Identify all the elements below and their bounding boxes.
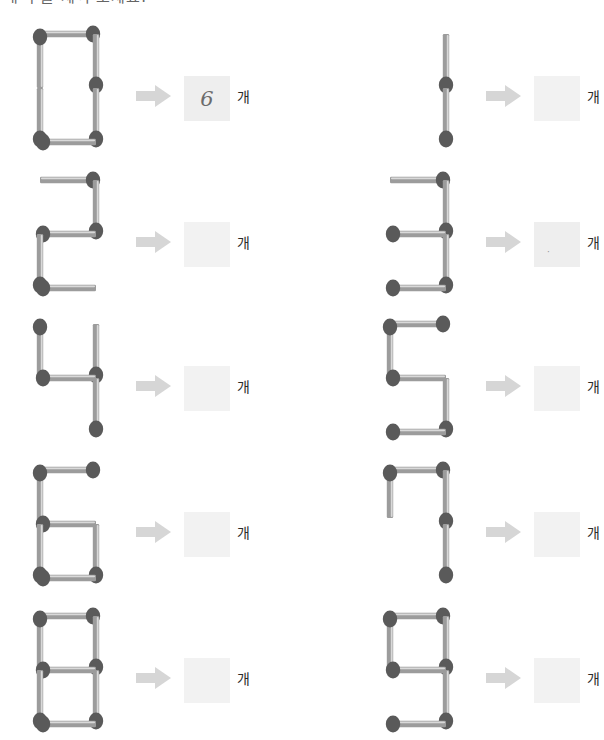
right-arrow-icon — [136, 520, 172, 544]
answer-input-9[interactable] — [534, 658, 580, 703]
matchstick-icon — [36, 226, 96, 243]
answer-value-6 — [184, 512, 230, 557]
matchstick-icon — [386, 716, 446, 733]
right-arrow-icon — [486, 374, 522, 398]
matchstick-icon — [36, 134, 96, 151]
matchstick-icon — [89, 670, 103, 729]
answer-input-6[interactable] — [184, 512, 230, 557]
matchstick-icon — [89, 524, 103, 583]
matchstick-digit-1 — [368, 22, 488, 167]
matchstick-icon — [390, 172, 450, 189]
problem-8: 개 — [18, 604, 316, 740]
unit-label-9: 개 — [587, 668, 600, 688]
matchstick-figure-8 — [18, 604, 138, 740]
matchstick-digit-6 — [18, 458, 138, 603]
unit-label-7: 개 — [587, 522, 600, 542]
answer-value-5 — [534, 366, 580, 411]
unit-label-8: 개 — [237, 668, 250, 688]
matchstick-icon — [439, 378, 453, 437]
matchstick-icon — [33, 319, 47, 378]
matchstick-icon — [33, 29, 47, 88]
problem-5: 개 — [368, 312, 604, 457]
matchstick-icon — [439, 470, 453, 529]
right-arrow-icon — [136, 374, 172, 398]
matchstick-icon — [36, 570, 96, 587]
answer-input-1[interactable] — [534, 76, 580, 121]
answer-input-3[interactable]: · — [534, 222, 580, 267]
matchstick-icon — [390, 316, 450, 333]
matchstick-icon — [89, 180, 103, 239]
answer-input-5[interactable] — [534, 366, 580, 411]
unit-label-3: 개 — [587, 232, 600, 252]
matchstick-icon — [386, 280, 446, 297]
matchstick-icon — [40, 172, 100, 189]
matchstick-icon — [386, 226, 446, 243]
answer-input-8[interactable] — [184, 658, 230, 703]
matchstick-icon — [439, 88, 453, 147]
problem-1: 개 — [368, 22, 604, 167]
matchstick-icon — [390, 608, 450, 625]
matchstick-icon — [383, 319, 397, 378]
matchstick-figure-2 — [18, 168, 138, 313]
problem-0: 6개 — [18, 22, 316, 167]
matchstick-icon — [439, 234, 453, 293]
matchstick-icon — [439, 180, 453, 239]
matchstick-icon — [36, 280, 96, 297]
matchstick-digit-0 — [18, 22, 138, 167]
matchstick-figure-6 — [18, 458, 138, 603]
matchstick-digit-9 — [368, 604, 488, 740]
matchstick-icon — [36, 662, 96, 679]
matchstick-icon — [40, 462, 100, 479]
matchstick-figure-0 — [18, 22, 138, 167]
matchstick-digit-8 — [18, 604, 138, 740]
matchstick-icon — [383, 611, 397, 670]
matchstick-icon — [386, 662, 446, 679]
answer-input-2[interactable] — [184, 222, 230, 267]
right-arrow-icon — [136, 230, 172, 254]
matchstick-digit-2 — [18, 168, 138, 313]
matchstick-figure-4 — [18, 312, 138, 457]
right-arrow-icon — [486, 666, 522, 690]
matchstick-icon — [89, 324, 103, 383]
matchstick-icon — [40, 26, 100, 43]
answer-input-4[interactable] — [184, 366, 230, 411]
matchstick-icon — [40, 608, 100, 625]
answer-value-8 — [184, 658, 230, 703]
matchstick-icon — [439, 34, 453, 93]
matchstick-digit-5 — [368, 312, 488, 457]
matchstick-icon — [36, 370, 96, 387]
right-arrow-icon — [486, 84, 522, 108]
problem-6: 개 — [18, 458, 316, 603]
answer-value-2 — [184, 222, 230, 267]
problem-4: 개 — [18, 312, 316, 457]
right-arrow-icon — [136, 666, 172, 690]
unit-label-6: 개 — [237, 522, 250, 542]
right-arrow-icon — [136, 84, 172, 108]
matchstick-icon — [33, 611, 47, 670]
matchstick-figure-1 — [368, 22, 488, 167]
unit-label-0: 개 — [237, 86, 250, 106]
unit-label-1: 개 — [587, 86, 600, 106]
problem-3: ·개 — [368, 168, 604, 313]
answer-input-7[interactable] — [534, 512, 580, 557]
matchstick-digit-4 — [18, 312, 138, 457]
matchstick-icon — [33, 465, 47, 524]
matchstick-icon — [89, 378, 103, 437]
right-arrow-icon — [486, 520, 522, 544]
answer-value-1 — [534, 76, 580, 121]
problem-9: 개 — [368, 604, 604, 740]
matchstick-icon — [439, 616, 453, 675]
answer-input-0[interactable]: 6 — [184, 76, 230, 121]
answer-value-9 — [534, 658, 580, 703]
matchstick-icon — [439, 670, 453, 729]
matchstick-digit-7 — [368, 458, 488, 603]
unit-label-4: 개 — [237, 376, 250, 396]
matchstick-digit-3 — [368, 168, 488, 313]
matchstick-icon — [439, 524, 453, 583]
matchstick-icon — [383, 465, 397, 518]
matchstick-figure-5 — [368, 312, 488, 457]
unit-label-5: 개 — [587, 376, 600, 396]
unit-label-2: 개 — [237, 232, 250, 252]
matchstick-icon — [89, 34, 103, 93]
